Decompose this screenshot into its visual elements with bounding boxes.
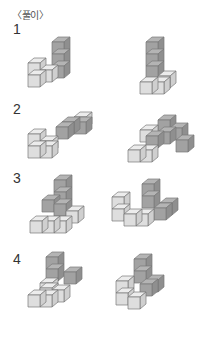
light-cube	[124, 209, 142, 226]
figure-4-left	[28, 252, 82, 307]
dark-cube	[154, 203, 172, 220]
light-cube	[128, 145, 146, 162]
light-cube	[28, 141, 46, 158]
dark-cube	[176, 135, 194, 152]
figure-1-left	[28, 37, 70, 87]
figure-1-right	[140, 37, 176, 94]
figure-3-right	[112, 179, 178, 226]
figure-3-left	[30, 175, 84, 233]
cube-figures	[0, 0, 211, 343]
light-cube	[28, 70, 46, 87]
figure-2-right	[128, 115, 194, 162]
figure-4-right	[116, 254, 164, 309]
dark-cube	[56, 122, 74, 139]
light-cube	[128, 292, 146, 309]
dark-cube	[64, 267, 82, 284]
light-cube	[140, 77, 158, 94]
light-cube	[28, 290, 46, 307]
figure-2-left	[28, 112, 92, 158]
light-cube	[30, 216, 48, 233]
